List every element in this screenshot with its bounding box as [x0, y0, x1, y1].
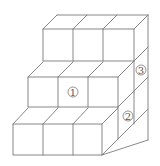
cube-stack-diagram: 1 2 3	[0, 0, 160, 166]
label-1: 1	[68, 87, 78, 98]
svg-text:1: 1	[70, 87, 76, 98]
svg-text:2: 2	[125, 111, 131, 122]
bottom-row-cubes	[13, 93, 148, 155]
svg-text:3: 3	[138, 65, 144, 76]
label-2: 2	[123, 111, 133, 122]
label-3: 3	[136, 65, 146, 76]
middle-row-cubes	[28, 47, 148, 107]
top-row-cubes	[43, 15, 148, 140]
